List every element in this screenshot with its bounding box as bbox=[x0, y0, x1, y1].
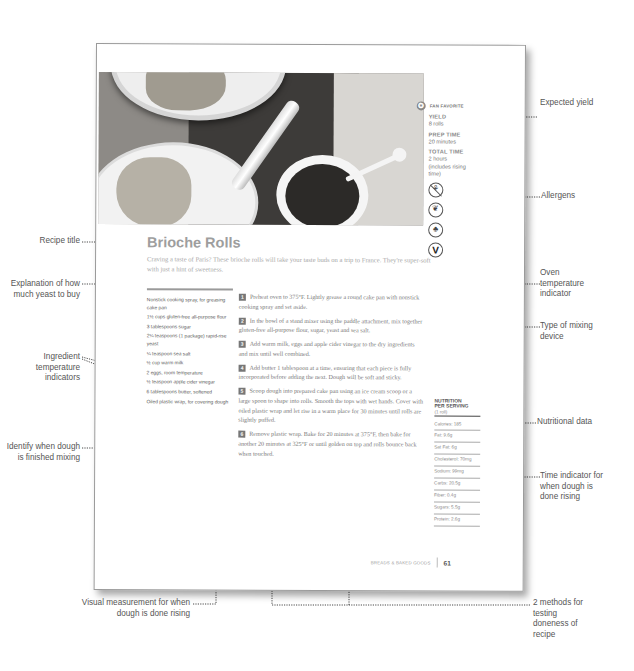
ingredient-item: 1½ cups gluten-free all-purpose flour bbox=[147, 313, 235, 321]
ingredient-item: ½ cup warm milk bbox=[147, 359, 235, 367]
ingredients-divider bbox=[147, 288, 233, 290]
step-number-badge: 4 bbox=[239, 364, 246, 371]
annotation-doneness-methods: 2 methods for testing doneness of recipe bbox=[533, 598, 593, 641]
ingredient-item: Oiled plastic wrap, for covering dough bbox=[146, 398, 234, 406]
cookbook-page: ✪ FAN FAVORITE YIELD 8 rolls PREP TIME 2… bbox=[94, 43, 526, 592]
step-number-badge: 3 bbox=[239, 341, 246, 348]
annotation-allergens: Allergens bbox=[541, 191, 611, 202]
nutrition-row: Sodium: 99mg bbox=[434, 466, 480, 478]
recipe-photo bbox=[98, 72, 424, 225]
nut-free-leaf-icon: ❦ bbox=[428, 203, 443, 218]
step-number-badge: 1 bbox=[239, 294, 246, 301]
step-5: 5Scoop dough into prepared cake pan usin… bbox=[238, 387, 423, 427]
nutrition-row: Carbs: 20.5g bbox=[434, 478, 480, 490]
step-number-badge: 2 bbox=[239, 317, 246, 324]
annotation-rise-time: Time indicator for when dough is done ri… bbox=[540, 471, 606, 503]
recipe-meta-sidebar: ✪ FAN FAVORITE YIELD 8 rolls PREP TIME 2… bbox=[428, 101, 524, 258]
nutrition-divider bbox=[434, 415, 480, 417]
annotation-oven-temperature: Oven temperature indicator bbox=[540, 268, 600, 300]
ingredient-item: 6 tablespoons butter, softened bbox=[146, 388, 234, 396]
step-1: 1Preheat oven to 375°F. Lightly grease a… bbox=[239, 293, 424, 313]
star-icon: ✪ bbox=[417, 101, 426, 110]
ingredient-item: 3 tablespoons sugar bbox=[147, 323, 235, 331]
ingredient-item: ¼ teaspoon sea salt bbox=[147, 350, 235, 358]
allergen-icons: ⚘ ❦ ♣ V bbox=[428, 183, 523, 258]
step-2: 2In the bowl of a stand mixer using the … bbox=[239, 316, 424, 336]
nutrition-row: Sugars: 5.5g bbox=[434, 502, 480, 514]
step-6: 6Remove plastic wrap. Bake for 20 minute… bbox=[238, 430, 423, 460]
nutrition-row: Fiber: 0.4g bbox=[434, 490, 480, 502]
page-footer: BREADS & BAKED GOODS 61 bbox=[371, 557, 451, 567]
meta-total-time: TOTAL TIME 2 hours (includes rising time… bbox=[428, 149, 466, 178]
annotation-expected-yield: Expected yield bbox=[540, 98, 600, 109]
annotation-finished-mixing: Identify when dough is finished mixing bbox=[2, 442, 80, 463]
footer-divider bbox=[437, 557, 438, 567]
annotation-visual-rise-measurement: Visual measurement for when dough is don… bbox=[58, 598, 190, 619]
annotation-recipe-title: Recipe title bbox=[2, 236, 80, 247]
instruction-steps: 1Preheat oven to 375°F. Lightly grease a… bbox=[238, 293, 424, 464]
acorn-icon: ♣ bbox=[428, 223, 443, 238]
annotation-nutritional-data: Nutritional data bbox=[537, 417, 597, 428]
nutrition-row: Calories: 185 bbox=[434, 418, 480, 430]
step-4: 4Add butter 1 tablespoon at a time, ensu… bbox=[239, 363, 424, 383]
section-name: BREADS & BAKED GOODS bbox=[371, 560, 431, 565]
ingredient-item: ½ teaspoon apple cider vinegar bbox=[147, 379, 235, 387]
annotation-ingredient-temperature: Ingredient temperature indicators bbox=[2, 352, 80, 384]
page-number: 61 bbox=[443, 559, 451, 566]
fan-favorite-badge: ✪ FAN FAVORITE bbox=[417, 101, 524, 110]
gluten-free-icon: ⚘ bbox=[428, 183, 443, 198]
nutrition-panel: NUTRITION PER SERVING (1 roll) Calories:… bbox=[434, 398, 481, 526]
ingredient-item: 2¼ teaspoons (1 package) rapid-rise yeas… bbox=[147, 333, 235, 349]
nutrition-row: Cholesterol: 70mg bbox=[434, 454, 480, 466]
ingredient-item: Nonstick cooking spray, for greasing cak… bbox=[147, 296, 235, 312]
ingredient-item: 2 eggs, room temperature bbox=[147, 369, 235, 377]
annotation-yeast-explanation: Explanation of how much yeast to buy bbox=[2, 279, 80, 300]
meta-yield: YIELD 8 rolls bbox=[429, 113, 524, 128]
annotation-mixing-device: Type of mixing device bbox=[540, 321, 610, 342]
step-3: 3Add warm milk, eggs and apple cider vin… bbox=[239, 340, 424, 360]
nutrition-row: Sat Fat: 6g bbox=[434, 442, 480, 454]
step-number-badge: 6 bbox=[238, 431, 245, 438]
recipe-title: Brioche Rolls bbox=[147, 234, 241, 250]
meta-prep-time: PREP TIME 20 minutes bbox=[429, 131, 524, 146]
step-number-badge: 5 bbox=[238, 388, 245, 395]
ingredient-list: Nonstick cooking spray, for greasing cak… bbox=[146, 296, 234, 408]
nutrition-row: Fat: 9.6g bbox=[434, 430, 480, 442]
nutrition-row: Protein: 2.6g bbox=[434, 514, 480, 526]
recipe-intro: Craving a taste of Paris? These brioche … bbox=[147, 254, 432, 276]
